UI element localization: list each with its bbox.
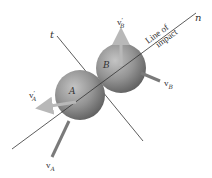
vb-prime-label: v′B <box>117 16 125 29</box>
sphere-b-label: B <box>102 60 110 70</box>
va-arrow <box>52 121 69 157</box>
sphere-a-label: A <box>68 86 76 96</box>
tangent-label: t <box>50 29 55 40</box>
va-label: vA <box>46 160 56 172</box>
sphere-a <box>55 70 105 120</box>
normal-label: n <box>195 12 201 23</box>
va-prime-label: v′A <box>29 89 37 102</box>
impact-diagram: t n Line of impact A B v′B vB v′A vA <box>0 0 212 178</box>
vb-label: vB <box>164 78 174 90</box>
